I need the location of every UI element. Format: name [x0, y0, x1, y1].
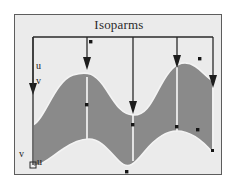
surface-diagram	[15, 15, 222, 175]
control-point	[89, 40, 92, 43]
control-point	[198, 57, 201, 60]
control-point	[125, 170, 128, 173]
control-point	[85, 103, 88, 106]
control-point	[211, 149, 214, 152]
control-point	[196, 128, 199, 131]
v-axis-label: v	[19, 149, 24, 159]
u-direction-label-upper: u	[36, 61, 41, 71]
figure-panel: Isoparms	[14, 14, 222, 175]
isoparm-arrow-2	[83, 57, 91, 70]
isoparm-arrow-3	[129, 101, 137, 114]
control-point	[131, 123, 134, 126]
u-axis-label: u	[37, 157, 42, 167]
surface-patch	[33, 63, 213, 167]
control-point	[175, 125, 178, 128]
v-direction-label-upper: v	[36, 76, 41, 86]
isoparms-figure: Isoparms	[0, 0, 235, 189]
